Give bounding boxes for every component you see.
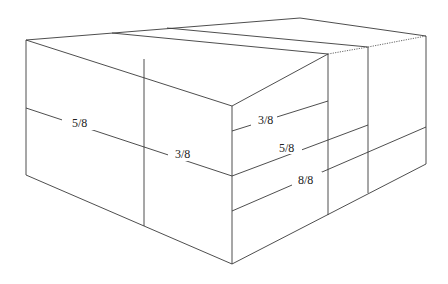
label-left-3-8: 3/8 bbox=[175, 147, 190, 161]
fraction-labels: 5/8 3/8 3/8 5/8 8/8 bbox=[62, 112, 322, 187]
label-front-5-8: 5/8 bbox=[279, 141, 294, 155]
right-face bbox=[232, 36, 426, 264]
label-front-8-8: 8/8 bbox=[298, 173, 313, 187]
label-left-5-8: 5/8 bbox=[72, 116, 87, 130]
top-face bbox=[26, 18, 426, 106]
label-front-3-8: 3/8 bbox=[258, 113, 273, 127]
box-diagram: 5/8 3/8 3/8 5/8 8/8 bbox=[0, 0, 448, 284]
box-diagram-svg: 5/8 3/8 3/8 5/8 8/8 bbox=[0, 0, 448, 284]
